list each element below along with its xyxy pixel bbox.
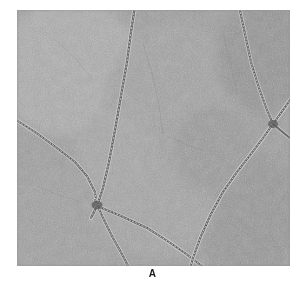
micrograph-canvas — [17, 10, 290, 266]
figure-root: A — [0, 0, 305, 284]
panel-label: A — [0, 267, 305, 280]
micrograph-fine-grain — [17, 10, 290, 266]
micrograph-image — [17, 10, 290, 266]
